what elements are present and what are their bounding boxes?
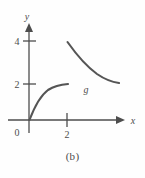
- curve-right-branch: [68, 42, 120, 83]
- y-axis-label: y: [24, 11, 30, 22]
- figure-caption: (b): [0, 150, 145, 162]
- x-axis-arrow: [116, 116, 125, 124]
- curve-left-branch: [30, 84, 69, 120]
- x-axis-label: x: [130, 115, 136, 126]
- y-tick-label-2: 2: [15, 79, 20, 90]
- figure-container: y x 4 2 2 0 g (b): [0, 0, 145, 178]
- curve-label-g: g: [84, 84, 89, 95]
- graph-plot: y x 4 2 2 0 g: [0, 0, 145, 150]
- x-tick-label-2: 2: [65, 129, 70, 140]
- y-axis-arrow: [25, 23, 33, 32]
- y-tick-label-4: 4: [15, 36, 20, 47]
- origin-label: 0: [15, 127, 20, 138]
